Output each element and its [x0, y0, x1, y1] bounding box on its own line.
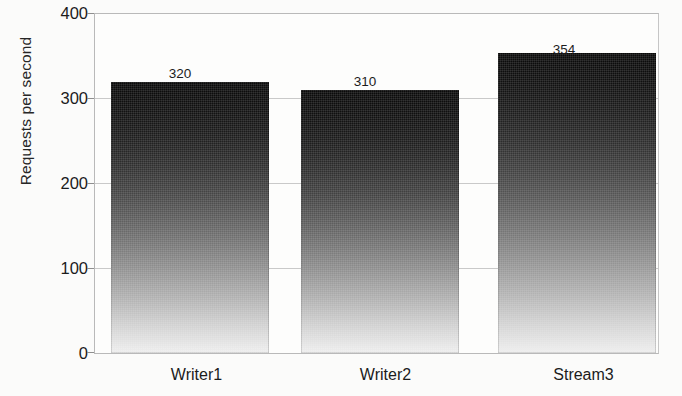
tickmark-100	[87, 268, 94, 269]
y-tick-label-0: 0	[34, 345, 88, 362]
bar-value-label-writer1: 320	[140, 66, 220, 81]
x-tick-label-writer2: Writer2	[318, 366, 453, 384]
plot-area	[94, 13, 659, 354]
x-tick-label-stream3: Stream3	[516, 366, 651, 384]
x-tick-label-writer1: Writer1	[129, 366, 264, 384]
bar-value-label-writer2: 310	[325, 74, 405, 89]
tickmark-300	[87, 98, 94, 99]
bar-value-label-stream3: 354	[524, 42, 604, 57]
y-tick-label-200: 200	[34, 175, 88, 192]
y-tick-label-400: 400	[34, 5, 88, 22]
tickmark-0	[87, 352, 94, 353]
bar-writer1[interactable]	[111, 82, 269, 353]
y-tick-label-300: 300	[34, 90, 88, 107]
bar-chart: Requests per second 400 300 200 100 0 32…	[0, 0, 682, 396]
y-axis-tick-labels: 400 300 200 100 0	[32, 0, 88, 396]
tickmark-200	[87, 183, 94, 184]
y-tick-label-100: 100	[34, 260, 88, 277]
tickmark-400	[87, 13, 94, 14]
bar-stream3[interactable]	[498, 53, 656, 353]
bar-writer2[interactable]	[301, 90, 459, 353]
